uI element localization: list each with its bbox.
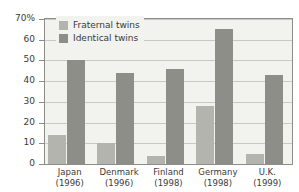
y-tick-label-30: 30 [24, 97, 35, 106]
y-tick-mark-20 [39, 123, 44, 124]
x-label-country: Japan [45, 167, 94, 178]
legend-item-identical: Identical twins [59, 32, 140, 44]
twin-births-bar-chart: 010203040506070% Japan(1996)Denmark(1996… [0, 0, 299, 192]
x-label-country: Denmark [94, 167, 143, 178]
y-tick-label-70: 70% [15, 14, 35, 23]
x-label-year: (1996) [94, 178, 143, 189]
y-tick-mark-40 [39, 81, 44, 82]
legend-item-fraternal: Fraternal twins [59, 19, 140, 31]
bar-denmark-fraternal [97, 143, 115, 164]
x-label-year: (1999) [243, 178, 292, 189]
bar-japan-identical [67, 60, 85, 164]
y-tick-label-40: 40 [24, 76, 35, 85]
x-label-denmark: Denmark(1996) [94, 167, 143, 189]
bar-uk-fraternal [246, 154, 264, 164]
y-tick-label-20: 20 [24, 118, 35, 127]
x-label-country: Finland [144, 167, 193, 178]
x-label-year: (1996) [45, 178, 94, 189]
y-tick-mark-70 [39, 19, 44, 20]
y-tick-label-60: 60 [24, 35, 35, 44]
y-tick-label-10: 10 [24, 138, 35, 147]
y-tick-mark-60 [39, 40, 44, 41]
y-axis: 010203040506070% [0, 0, 40, 192]
y-tick-mark-10 [39, 143, 44, 144]
bar-uk-identical [265, 75, 283, 164]
bar-germany-fraternal [196, 106, 214, 164]
bar-group-uk [243, 19, 292, 164]
bar-group-finland [144, 19, 193, 164]
legend-label: Identical twins [73, 33, 138, 43]
x-label-year: (1998) [144, 178, 193, 189]
x-label-country: U.K. [243, 167, 292, 178]
gridline-0 [45, 164, 292, 165]
bar-germany-identical [215, 29, 233, 164]
y-tick-label-0: 0 [29, 159, 35, 168]
x-label-germany: Germany(1998) [193, 167, 242, 189]
legend-label: Fraternal twins [73, 20, 140, 30]
legend-swatch-icon [59, 34, 68, 43]
x-label-japan: Japan(1996) [45, 167, 94, 189]
y-tick-mark-30 [39, 102, 44, 103]
legend-swatch-icon [59, 21, 68, 30]
bar-group-germany [193, 19, 242, 164]
bar-finland-fraternal [147, 156, 165, 164]
bar-japan-fraternal [48, 135, 66, 164]
x-axis: Japan(1996)Denmark(1996)Finland(1998)Ger… [45, 167, 292, 192]
x-label-year: (1998) [193, 178, 242, 189]
y-tick-label-50: 50 [24, 55, 35, 64]
x-label-uk: U.K.(1999) [243, 167, 292, 189]
bar-finland-identical [166, 69, 184, 164]
y-tick-mark-50 [39, 60, 44, 61]
x-label-finland: Finland(1998) [144, 167, 193, 189]
legend: Fraternal twinsIdentical twins [56, 16, 144, 48]
bar-denmark-identical [116, 73, 134, 164]
y-tick-mark-0 [39, 164, 44, 165]
x-label-country: Germany [193, 167, 242, 178]
